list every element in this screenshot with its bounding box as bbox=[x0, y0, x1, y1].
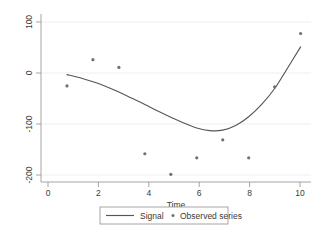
x-tick-label-4: 4 bbox=[146, 188, 151, 198]
x-tick-label-0: 0 bbox=[46, 188, 51, 198]
y-tick-label-neg200: -200 bbox=[24, 166, 34, 183]
y-tick-label-100: 100 bbox=[24, 15, 34, 29]
observed-data-point bbox=[247, 156, 250, 159]
observed-data-point bbox=[143, 152, 146, 155]
y-tick-label-neg100: -100 bbox=[24, 115, 34, 132]
legend-observed-dot-icon bbox=[172, 214, 175, 217]
y-tick-label-0: 0 bbox=[24, 70, 34, 75]
legend-label-signal: Signal bbox=[140, 211, 164, 221]
observed-data-point bbox=[91, 58, 94, 61]
x-tick-label-2: 2 bbox=[96, 188, 101, 198]
scatter-plot-svg: 100 0 -100 -200 0 2 4 6 8 10 Time bbox=[0, 0, 327, 239]
figure-background bbox=[0, 0, 327, 239]
observed-data-point bbox=[273, 85, 276, 88]
chart-legend: Signal Observed series bbox=[100, 207, 242, 224]
x-tick-label-8: 8 bbox=[247, 188, 252, 198]
x-tick-label-10: 10 bbox=[295, 188, 305, 198]
chart-figure: 100 0 -100 -200 0 2 4 6 8 10 Time bbox=[0, 0, 327, 239]
legend-label-observed: Observed series bbox=[180, 211, 242, 221]
observed-data-point bbox=[65, 84, 68, 87]
observed-data-point bbox=[221, 138, 224, 141]
observed-data-point bbox=[299, 32, 302, 35]
observed-data-point bbox=[195, 156, 198, 159]
observed-data-point bbox=[169, 173, 172, 176]
x-tick-label-6: 6 bbox=[197, 188, 202, 198]
observed-data-point bbox=[117, 66, 120, 69]
